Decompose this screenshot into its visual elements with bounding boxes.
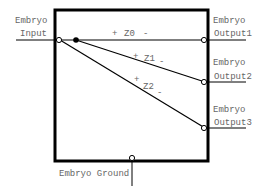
output1-terminal-icon bbox=[201, 37, 206, 42]
z0-minus: - bbox=[143, 29, 148, 39]
output1-label-line1: Embryo bbox=[213, 16, 245, 26]
z1-plus: + bbox=[133, 52, 138, 62]
ground-label: Embryo Ground bbox=[59, 169, 129, 179]
input-label-line1: Embryo bbox=[15, 16, 47, 26]
output2-label-line1: Embryo bbox=[213, 58, 245, 68]
output2-label-line2: Output2 bbox=[214, 72, 252, 82]
input-label-line2: Input bbox=[20, 29, 47, 39]
z1-minus: - bbox=[159, 57, 164, 67]
junction-node-icon bbox=[73, 37, 79, 43]
z2-minus: - bbox=[157, 88, 162, 98]
z0-label: Z0 bbox=[124, 29, 135, 39]
z1-label: Z1 bbox=[144, 54, 155, 64]
ground-terminal-icon bbox=[129, 155, 134, 160]
output3-label-line2: Output3 bbox=[214, 118, 252, 128]
z2-label: Z2 bbox=[143, 82, 154, 92]
input-terminal-icon bbox=[56, 37, 61, 42]
output3-terminal-icon bbox=[201, 125, 206, 130]
output2-terminal-icon bbox=[201, 79, 206, 84]
output3-label-line1: Embryo bbox=[213, 105, 245, 115]
z2-plus: + bbox=[134, 75, 139, 85]
output1-label-line2: Output1 bbox=[214, 29, 252, 39]
z0-plus: + bbox=[112, 29, 117, 39]
